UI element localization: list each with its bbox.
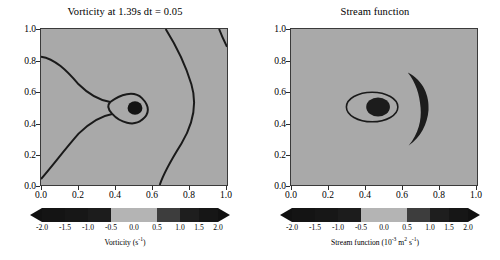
ytick-label-0-4: 0.4 (258, 119, 286, 129)
colorbar-vorticity (30, 207, 230, 223)
ytick-label-0-2: 0.2 (258, 150, 286, 160)
colorbar-swatch-0 (292, 208, 315, 222)
panel-title-vorticity: Vorticity at 1.39s dt = 0.05 (0, 6, 250, 17)
xtick-label-0-8: 0.8 (174, 190, 204, 200)
cbar-tick-2-0: 2.0 (205, 223, 231, 232)
cbar-tick-2-0: 2.0 (455, 223, 481, 232)
xtick-label-0-2: 0.2 (313, 190, 343, 200)
ytick-mark-0-0 (36, 186, 40, 187)
colorbar-label-close: ) (143, 238, 146, 247)
ytick-label-0-2: 0.2 (8, 150, 36, 160)
panel-vorticity: Vorticity at 1.39s dt = 0.05 1.0 0.8 0.6… (0, 0, 250, 260)
contour-plot-stream-function (291, 29, 477, 185)
colorbar-swatch-5 (430, 208, 449, 222)
stream-inner-blob (366, 98, 390, 117)
colorbar-ticks-stream-function: -2.0 -1.5 -1.0 -0.5 0.0 0.5 1.0 1.5 2.0 (280, 223, 480, 235)
colorbar-label-text: Stream function (10 (331, 238, 392, 247)
colorbar-swatch-2 (88, 208, 111, 222)
xtick-label-0-6: 0.6 (137, 190, 167, 200)
colorbar-swatches-stream-function (280, 207, 480, 223)
colorbar-swatches-vorticity (30, 207, 230, 223)
ytick-label-1-0: 1.0 (258, 24, 286, 34)
colorbar-extend-min (280, 208, 292, 222)
ytick-label-0-6: 0.6 (8, 87, 36, 97)
plot-area-vorticity (40, 28, 228, 186)
panel-stream-function: Stream function 1.0 0.8 0.6 0.4 0.2 0.0 … (250, 0, 500, 260)
xtick-label-0-4: 0.4 (350, 190, 380, 200)
colorbar-extend-min (30, 208, 42, 222)
colorbar-swatch-6 (449, 208, 468, 222)
colorbar-swatch-0 (42, 208, 65, 222)
xtick-label-0-2: 0.2 (63, 190, 93, 200)
ytick-label-0-4: 0.4 (8, 119, 36, 129)
colorbar-swatch-3 (111, 208, 157, 222)
colorbar-swatch-4 (157, 208, 180, 222)
xtick-label-1-0: 1.0 (211, 190, 241, 200)
ytick-label-1-0: 1.0 (8, 24, 36, 34)
xtick-label-0-0: 0.0 (26, 190, 56, 200)
colorbar-extend-max (218, 208, 230, 222)
xtick-label-1-0: 1.0 (461, 190, 491, 200)
xtick-label-0-8: 0.8 (424, 190, 454, 200)
colorbar-label-close: ) (417, 238, 420, 247)
colorbar-label-vorticity: Vorticity (s-1) (0, 236, 250, 247)
xtick-label-0-0: 0.0 (276, 190, 306, 200)
ytick-label-0-8: 0.8 (258, 56, 286, 66)
ytick-label-0-8: 0.8 (8, 56, 36, 66)
colorbar-swatch-2 (338, 208, 361, 222)
colorbar-swatch-1 (315, 208, 338, 222)
ytick-label-0-6: 0.6 (258, 87, 286, 97)
colorbar-swatch-1 (65, 208, 88, 222)
xtick-label-0-4: 0.4 (100, 190, 130, 200)
colorbar-extend-max (468, 208, 480, 222)
plot-area-stream-function (290, 28, 478, 186)
ytick-mark-0-0 (286, 186, 290, 187)
colorbar-swatch-3 (361, 208, 407, 222)
panel-title-stream-function: Stream function (250, 6, 500, 17)
contour-plot-vorticity (41, 29, 227, 185)
vortex-core-blob (128, 101, 143, 114)
colorbar-swatch-6 (199, 208, 218, 222)
colorbar-stream-function (280, 207, 480, 223)
xtick-label-0-6: 0.6 (387, 190, 417, 200)
colorbar-swatch-4 (407, 208, 430, 222)
colorbar-label-text: Vorticity (s (104, 238, 138, 247)
colorbar-ticks-vorticity: -2.0 -1.5 -1.0 -0.5 0.0 0.5 1.0 1.5 2.0 (30, 223, 230, 235)
colorbar-swatch-5 (180, 208, 199, 222)
colorbar-label-stream-function: Stream function (10-3 m2 s-1) (250, 236, 500, 247)
